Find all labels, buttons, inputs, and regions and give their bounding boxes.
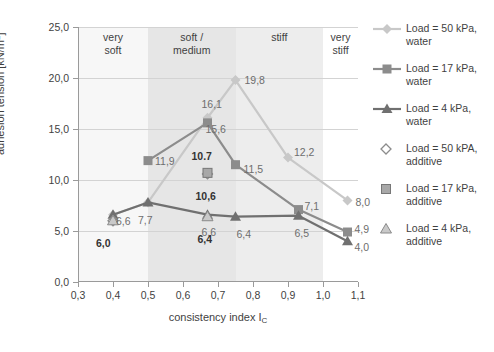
- legend-label-3: Load = 50 kPA,additive: [406, 142, 477, 168]
- series-2-marker-5: [342, 236, 353, 246]
- zone-label-3: very stiff: [323, 31, 358, 56]
- x-tick-label-2: 0,5: [141, 289, 156, 301]
- line-square-key: [372, 62, 406, 76]
- legend-label-5-line2: additive: [406, 235, 471, 248]
- data-label-s1-p0: 11,9: [155, 155, 175, 167]
- legend-item-2[interactable]: Load = 4 kPa,water: [372, 102, 494, 128]
- series-plot: [78, 27, 358, 282]
- legend-item-0[interactable]: Load = 50 kPa,water: [372, 22, 494, 48]
- y-tick-label-1: 5,0: [54, 225, 69, 237]
- x-tick-8: [358, 282, 359, 287]
- data-label-s1-p2: 11,5: [244, 163, 264, 175]
- chart-legend: Load = 50 kPa,waterLoad = 17 kPa,waterLo…: [372, 22, 494, 262]
- legend-label-0: Load = 50 kPa,water: [406, 22, 477, 48]
- data-label-s0-p4: 12,2: [294, 146, 314, 158]
- y-tick-label-0: 0,0: [54, 276, 69, 288]
- y-axis-title: adhesion tension [kN/m2]: [0, 33, 6, 155]
- legend-label-0-line1: Load = 50 kPa,: [406, 22, 477, 35]
- x-tick-label-6: 0,9: [281, 289, 296, 301]
- legend-label-1-line2: water: [406, 75, 477, 88]
- data-label-s1-p1: 15,6: [206, 123, 226, 135]
- y-tick-label-3: 15,0: [49, 123, 69, 135]
- point-square-key: [376, 182, 406, 196]
- x-tick-1: [113, 282, 114, 287]
- legend-item-4[interactable]: Load = 17 kPa,additive: [376, 182, 494, 208]
- data-label-s2-p1: 7,7: [138, 214, 153, 226]
- legend-label-1-line1: Load = 17 kPa,: [406, 62, 477, 75]
- x-tick-label-0: 0,3: [71, 289, 86, 301]
- series-1-marker-2: [231, 160, 240, 169]
- legend-item-3[interactable]: Load = 50 kPA,additive: [376, 142, 494, 168]
- legend-label-1: Load = 17 kPa,water: [406, 62, 477, 88]
- data-label-s2-p4: 6,5: [295, 227, 310, 239]
- legend-item-1[interactable]: Load = 17 kPa,water: [372, 62, 494, 88]
- x-axis-title-sub: C: [262, 316, 268, 325]
- x-tick-label-5: 0,8: [246, 289, 261, 301]
- x-axis-title-text: consistency index I: [169, 311, 262, 323]
- y-tick-label-5: 25,0: [49, 21, 69, 33]
- data-label-s0-p0: 6,6: [116, 215, 131, 227]
- data-label-s1-p4: 4,9: [355, 223, 370, 235]
- legend-label-5: Load = 4 kPa,additive: [406, 222, 471, 248]
- series-1-marker-0: [144, 156, 153, 165]
- data-label-s3-p0: 6,0: [96, 237, 111, 249]
- legend-label-4-line1: Load = 17 kPa,: [406, 182, 477, 195]
- line-triangle-key: [372, 102, 406, 116]
- y-tick-label-2: 10,0: [49, 174, 69, 186]
- plot-wrapper: adhesion tension [kN/m2] consistency ind…: [0, 0, 400, 352]
- x-tick-4: [218, 282, 219, 287]
- point-triangle-key: [376, 222, 406, 236]
- x-tick-label-3: 0,6: [176, 289, 191, 301]
- line-diamond-key: [372, 22, 406, 36]
- data-label-s2-p3: 6,4: [237, 228, 252, 240]
- data-label-s1-p3: 7,1: [305, 200, 320, 212]
- x-tick-3: [183, 282, 184, 287]
- x-tick-0: [78, 282, 79, 287]
- y-axis-title-sup: 2: [0, 36, 2, 40]
- point-diamond-key: [376, 142, 406, 156]
- plot-area: 0,05,010,015,020,025,0 0,30,40,50,60,70,…: [78, 27, 358, 282]
- x-tick-label-7: 1,0: [316, 289, 331, 301]
- data-label-s0-p2: 16,1: [202, 98, 222, 110]
- adhesion-tension-chart: adhesion tension [kN/m2] consistency ind…: [0, 0, 494, 352]
- zone-label-1: soft / medium: [148, 31, 236, 56]
- x-tick-5: [253, 282, 254, 287]
- data-label-s3-p1: 10,6: [196, 190, 216, 202]
- series-1-marker-4: [343, 228, 352, 237]
- legend-label-4: Load = 17 kPa,additive: [406, 182, 477, 208]
- x-tick-label-8: 1,1: [351, 289, 366, 301]
- x-tick-2: [148, 282, 149, 287]
- x-tick-label-1: 0,4: [106, 289, 121, 301]
- legend-item-5[interactable]: Load = 4 kPa,additive: [376, 222, 494, 248]
- legend-label-2: Load = 4 kPa,water: [406, 102, 471, 128]
- data-label-s5-p1: 6,4: [198, 233, 213, 245]
- x-tick-6: [288, 282, 289, 287]
- legend-label-2-line1: Load = 4 kPa,: [406, 102, 471, 115]
- x-axis-title: consistency index IC: [78, 311, 358, 323]
- data-label-s2-p5: 4,0: [355, 241, 370, 253]
- y-tick-label-4: 20,0: [49, 72, 69, 84]
- data-label-s0-p3: 19,8: [245, 74, 265, 86]
- series-4-marker-0: [203, 168, 212, 177]
- legend-label-0-line2: water: [406, 35, 477, 48]
- legend-label-3-line1: Load = 50 kPA,: [406, 142, 477, 155]
- zone-label-2: stiff: [236, 31, 324, 44]
- legend-label-5-line1: Load = 4 kPa,: [406, 222, 471, 235]
- data-label-s0-p5: 8,0: [356, 196, 371, 208]
- legend-label-4-line2: additive: [406, 195, 477, 208]
- data-label-s4-p0: 10.7: [192, 150, 212, 162]
- zone-label-0: very soft: [78, 31, 148, 56]
- y-axis-title-text: adhesion tension [kN/m: [0, 40, 6, 155]
- legend-label-3-line2: additive: [406, 155, 477, 168]
- x-tick-7: [323, 282, 324, 287]
- x-tick-label-4: 0,7: [211, 289, 226, 301]
- legend-label-2-line2: water: [406, 115, 471, 128]
